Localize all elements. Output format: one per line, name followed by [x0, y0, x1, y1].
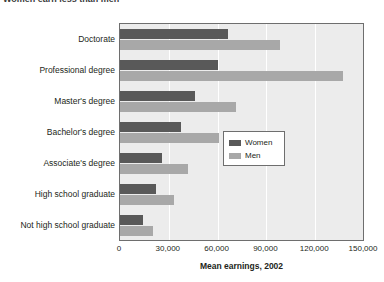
x-axis-tick-label: 30,000: [156, 244, 180, 254]
x-axis-tick-label: 0: [117, 244, 121, 254]
bar-men: [120, 40, 280, 50]
y-axis-label: Professional degree: [0, 65, 115, 75]
x-axis-title: Mean earnings, 2002: [119, 261, 364, 271]
x-axis-tick-label: 90,000: [253, 244, 277, 254]
x-axis-tick-label: 60,000: [204, 244, 228, 254]
bar-women: [120, 153, 162, 163]
legend-item: Women: [229, 136, 284, 149]
legend-swatch-icon: [229, 153, 241, 159]
legend-label: Women: [245, 138, 272, 147]
y-axis-label: Doctorate: [0, 34, 115, 44]
x-axis-tick-label: 120,000: [300, 244, 329, 254]
bar-women: [120, 29, 228, 39]
bar-men: [120, 226, 153, 236]
bar-men: [120, 133, 219, 143]
x-axis-tick-label: 150,000: [349, 244, 378, 254]
bar-women: [120, 184, 156, 194]
y-axis-label: Bachelor's degree: [0, 127, 115, 137]
bar-group: [120, 180, 363, 211]
bar-men: [120, 102, 236, 112]
x-axis-tick-labels: 030,00060,00090,000120,000150,000: [0, 244, 384, 256]
legend-item: Men: [229, 149, 284, 162]
bar-women: [120, 60, 218, 70]
chart-title: Women earn less than men: [3, 0, 119, 4]
bar-women: [120, 122, 181, 132]
bar-men: [120, 195, 174, 205]
bar-women: [120, 91, 195, 101]
bar-group: [120, 24, 363, 55]
legend-swatch-icon: [229, 140, 241, 146]
bar-women: [120, 215, 143, 225]
bar-men: [120, 164, 188, 174]
y-axis-label: Associate's degree: [0, 158, 115, 168]
bar-group: [120, 55, 363, 86]
y-axis-category-labels: DoctorateProfessional degreeMaster's deg…: [0, 23, 115, 241]
gridline-x: [364, 24, 365, 240]
bar-group: [120, 211, 363, 242]
chart-legend: WomenMen: [223, 131, 285, 166]
bar-men: [120, 71, 343, 81]
y-axis-label: High school graduate: [0, 189, 115, 199]
bar-group: [120, 86, 363, 117]
legend-label: Men: [245, 151, 261, 160]
y-axis-label: Not high school graduate: [0, 220, 115, 230]
y-axis-label: Master's degree: [0, 96, 115, 106]
